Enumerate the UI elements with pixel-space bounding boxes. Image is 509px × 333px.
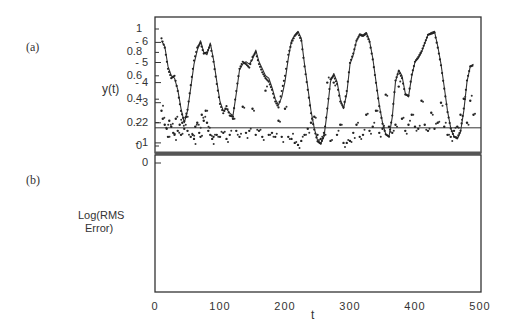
predicted-point — [398, 70, 400, 72]
error-point — [185, 124, 187, 126]
error-point — [179, 124, 181, 126]
predicted-point — [395, 76, 397, 78]
predicted-point — [302, 57, 304, 59]
error-point — [209, 127, 211, 129]
error-point — [364, 129, 366, 131]
predicted-point — [452, 133, 454, 135]
error-point — [378, 132, 380, 134]
predicted-point — [250, 59, 252, 61]
predicted-point — [286, 61, 288, 63]
error-point — [346, 142, 348, 144]
error-point — [394, 124, 396, 126]
predicted-point — [441, 72, 443, 74]
error-point — [167, 124, 169, 126]
predicted-point — [334, 77, 336, 79]
predicted-point — [403, 88, 405, 90]
predicted-point — [391, 114, 393, 116]
predicted-point — [342, 106, 344, 108]
predicted-point — [442, 80, 444, 82]
error-point — [399, 81, 401, 83]
predicted-point — [420, 50, 422, 52]
predicted-point — [350, 59, 352, 61]
error-point — [253, 110, 255, 112]
error-point — [202, 117, 204, 119]
predicted-point — [283, 80, 285, 82]
error-point — [160, 110, 162, 112]
predicted-point — [444, 95, 446, 97]
error-point — [336, 134, 338, 136]
error-point — [227, 141, 229, 143]
error-point — [207, 130, 209, 132]
error-point — [355, 124, 357, 126]
predicted-point — [393, 91, 395, 93]
predicted-point — [371, 52, 373, 54]
error-point — [450, 136, 452, 138]
predicted-point — [343, 101, 345, 103]
predicted-point — [206, 51, 208, 53]
error-point — [440, 102, 442, 104]
predicted-point — [443, 88, 445, 90]
predicted-point — [275, 102, 277, 104]
predicted-point — [346, 90, 348, 92]
predicted-point — [335, 80, 337, 82]
error-point — [463, 97, 465, 99]
predicted-point — [471, 65, 473, 67]
predicted-point — [421, 47, 423, 49]
predicted-point — [447, 116, 449, 118]
error-point — [166, 128, 168, 130]
error-point — [204, 116, 206, 118]
predicted-point — [195, 51, 197, 53]
error-point — [169, 136, 171, 138]
error-point — [196, 124, 198, 126]
error-point — [187, 116, 189, 118]
predicted-point — [258, 63, 260, 65]
error-point — [287, 136, 289, 138]
error-point — [471, 95, 473, 97]
predicted-point — [372, 58, 374, 60]
error-point — [407, 124, 409, 126]
error-point — [180, 119, 182, 121]
predicted-point — [209, 44, 211, 46]
predicted-point — [235, 90, 237, 92]
predicted-point — [284, 75, 286, 77]
error-point — [466, 122, 468, 124]
predicted-point — [433, 31, 435, 33]
predicted-point — [160, 37, 162, 39]
error-point — [381, 128, 383, 130]
predicted-point — [368, 41, 370, 43]
error-point — [442, 105, 444, 107]
predicted-point — [369, 47, 371, 49]
error-point — [181, 122, 183, 124]
error-point — [225, 138, 227, 140]
predicted-point — [179, 103, 181, 105]
error-point — [183, 128, 185, 130]
predicted-point — [200, 45, 202, 47]
error-point — [163, 117, 165, 119]
error-point — [398, 85, 400, 87]
predicted-point — [183, 120, 185, 122]
predicted-point — [215, 75, 217, 77]
predicted-point — [192, 68, 194, 70]
predicted-point — [190, 84, 192, 86]
error-point — [414, 126, 416, 128]
error-point — [354, 137, 356, 139]
error-point — [453, 130, 455, 132]
predicted-point — [314, 132, 316, 134]
predicted-point — [352, 52, 354, 54]
error-point — [206, 110, 208, 112]
predicted-point — [458, 132, 460, 134]
predicted-point — [228, 111, 230, 113]
predicted-point — [210, 50, 212, 52]
error-point — [196, 122, 198, 124]
predicted-point — [202, 49, 204, 51]
error-point — [368, 130, 370, 132]
error-point — [417, 128, 419, 130]
predicted-point — [303, 65, 305, 67]
error-point — [468, 124, 470, 126]
predicted-point — [274, 100, 276, 102]
error-point — [331, 139, 333, 141]
error-point — [396, 126, 398, 128]
error-point — [334, 85, 336, 87]
predicted-point — [341, 104, 343, 106]
error-point — [178, 132, 180, 134]
